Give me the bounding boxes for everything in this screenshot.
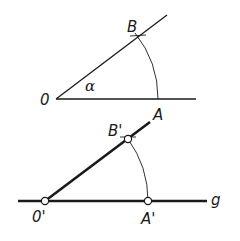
- ray-O'B': [45, 122, 150, 201]
- label-A: A: [152, 106, 163, 124]
- label-g: g: [211, 191, 221, 209]
- arc-B'A': [128, 139, 148, 201]
- label-O: 0: [40, 91, 50, 109]
- label-alpha: α: [85, 77, 95, 95]
- point-B': [124, 135, 131, 142]
- point-A': [144, 197, 151, 204]
- point-O': [41, 197, 48, 204]
- label-A': A': [140, 210, 155, 228]
- top-figure: 0 B A α: [40, 15, 196, 124]
- label-O': 0': [32, 208, 46, 226]
- label-B: B: [127, 18, 137, 36]
- bottom-figure: 0' B' A' g: [18, 122, 221, 228]
- angle-construction-diagram: 0 B A α 0' B' A' g: [0, 0, 240, 241]
- arc-BA: [135, 33, 158, 99]
- label-B': B': [108, 122, 122, 140]
- ray-OB: [56, 15, 167, 99]
